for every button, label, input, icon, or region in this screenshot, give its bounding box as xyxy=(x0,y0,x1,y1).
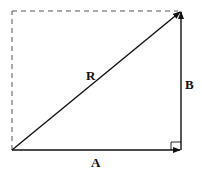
right-angle-marker xyxy=(171,142,181,150)
label-b: B xyxy=(185,77,194,92)
label-r: R xyxy=(86,68,96,83)
label-a: A xyxy=(91,155,101,170)
vector-diagram: R B A xyxy=(0,0,202,170)
vector-r-arrow xyxy=(12,12,180,150)
